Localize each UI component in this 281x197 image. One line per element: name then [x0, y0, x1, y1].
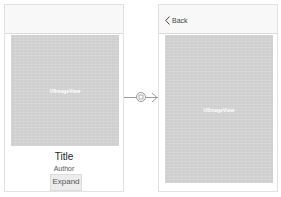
segue-push-icon[interactable] — [136, 92, 146, 102]
source-screen: UIImageView Title Author Expand — [4, 4, 124, 192]
expand-button[interactable]: Expand — [50, 174, 82, 191]
title-label: Title — [5, 151, 123, 162]
image-view-label: UIImageView — [11, 88, 119, 94]
back-button[interactable]: Back — [165, 16, 188, 25]
author-label: Author — [5, 165, 123, 172]
destination-screen: Back UIImageView — [158, 4, 278, 192]
navigation-bar: Back — [159, 5, 277, 34]
chevron-left-icon — [165, 16, 170, 25]
navigation-bar — [5, 5, 123, 34]
cover-image-view: UIImageView — [11, 35, 119, 146]
back-label: Back — [172, 17, 188, 24]
detail-image-view: UIImageView — [165, 35, 273, 183]
image-view-label: UIImageView — [165, 107, 273, 113]
